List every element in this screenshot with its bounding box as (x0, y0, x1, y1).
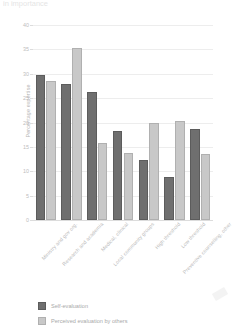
bar-perceived-evaluation (72, 48, 82, 220)
y-tick-label: 10 (7, 168, 29, 174)
bar-self-evaluation (61, 84, 71, 220)
x-tick-label: Low threshold (180, 221, 207, 249)
legend-label-perceived-evaluation: Perceived evaluation by others (51, 318, 128, 324)
y-tick-label: 35 (7, 46, 29, 52)
y-tick-label: 20 (7, 119, 29, 125)
bar-perceived-evaluation (124, 153, 134, 220)
bar-self-evaluation (113, 131, 123, 220)
legend-item-self: Self-evaluation (38, 299, 128, 312)
x-tick-label: Preventive counselling, other (182, 221, 233, 275)
bar-perceived-evaluation (149, 123, 159, 220)
bar-chart: in importance Percentage expertise 05101… (0, 0, 245, 335)
y-tick-label: 5 (7, 192, 29, 198)
bar-self-evaluation (190, 129, 200, 220)
y-tick-label: 40 (7, 22, 29, 28)
bar-perceived-evaluation (98, 143, 108, 221)
legend-item-perceived: Perceived evaluation by others (38, 314, 128, 327)
y-tick-label: 30 (7, 71, 29, 77)
x-axis-labels: Ministry and gov org.Research and academ… (33, 221, 223, 287)
legend-swatch-self-evaluation (38, 302, 46, 310)
chart-legend: Self-evaluation Perceived evaluation by … (38, 299, 128, 329)
bar-perceived-evaluation (175, 121, 185, 220)
y-tick-label: 0 (7, 217, 29, 223)
bar-perceived-evaluation (201, 154, 211, 220)
legend-label-self-evaluation: Self-evaluation (51, 303, 88, 309)
y-tick-label: 15 (7, 144, 29, 150)
bar-self-evaluation (87, 92, 97, 220)
chart-title: in importance (3, 0, 123, 8)
bar-self-evaluation (36, 75, 46, 220)
bars-layer (33, 25, 213, 220)
legend-swatch-perceived-evaluation (38, 317, 46, 325)
page-artifact (212, 287, 228, 301)
x-tick-label: High threshold (153, 221, 181, 250)
bar-self-evaluation (164, 177, 174, 220)
bar-self-evaluation (139, 160, 149, 220)
bar-perceived-evaluation (46, 81, 56, 220)
y-tick-label: 25 (7, 95, 29, 101)
plot-area: 0510152025303540 (33, 25, 213, 220)
